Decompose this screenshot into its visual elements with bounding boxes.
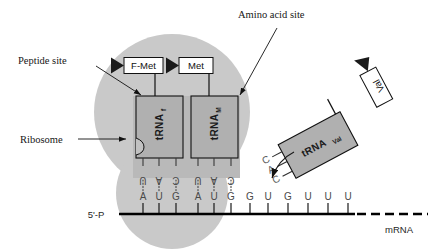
trna-m-subscript: M (215, 107, 222, 112)
callout-peptide-site: Peptide site (18, 55, 67, 66)
translation-diagram: Amino acid site Peptide site Ribosome F-… (0, 0, 441, 251)
val-group: Val (352, 53, 392, 107)
mrna-base-7: G (246, 191, 254, 202)
mrna-base-4: A (195, 191, 202, 202)
mrna-base-11: U (324, 191, 331, 202)
trna-f-label: tRNA (154, 114, 165, 141)
mrna-base-12: U (344, 191, 351, 202)
mrna-base-8: U (264, 191, 271, 202)
mrna-base-9: G (284, 191, 292, 202)
trna-val-stem-1 (272, 152, 282, 157)
callout-ribosome: Ribosome (20, 134, 63, 145)
trna-m-label: tRNA (209, 114, 220, 141)
amino-acid-site-leader (240, 28, 277, 95)
mrna-base-3: G (172, 191, 180, 202)
diagram-canvas: Amino acid site Peptide site Ribosome F-… (0, 0, 441, 251)
trna-val-stem-3 (283, 171, 293, 176)
mrna-base-10: U (304, 191, 311, 202)
trna-val-anticodon-base-3: C (270, 173, 282, 186)
met-label: Met (188, 60, 204, 71)
mrna-base-2: U (155, 191, 162, 202)
callout-amino-acid-site: Amino acid site (238, 9, 305, 20)
mrna-base-5: U (210, 191, 217, 202)
mrna-five-prime-label: 5'-P (88, 209, 105, 220)
mrna-base-1: A (140, 191, 147, 202)
trna-val-acceptor-stem (328, 99, 336, 114)
mrna-label: mRNA (385, 224, 414, 235)
mrna-base-6: G (227, 191, 235, 202)
trna-val-group: tRNA Val C A C (251, 97, 358, 189)
trna-val-anticodon: C A C (260, 153, 282, 186)
mrna-bases: A U G A U G G U G U U U (140, 191, 352, 202)
f-met-label: F-Met (131, 60, 156, 71)
